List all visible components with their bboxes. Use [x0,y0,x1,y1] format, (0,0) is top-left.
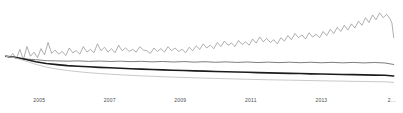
series-flat-gray [6,56,394,64]
line-chart: 200520072009201120132… [0,0,403,113]
series-thick-dark-decline [6,56,394,76]
series-light-gray-decline [6,56,394,82]
chart-plot-area [0,0,403,113]
series-volatile-growth [6,13,394,60]
